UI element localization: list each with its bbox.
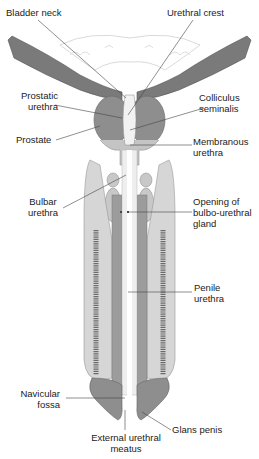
label-membranous-urethra: Membranous urethra	[193, 136, 248, 158]
label-external-urethral-meatus: External urethral meatus	[86, 432, 166, 454]
label-urethral-crest: Urethral crest	[167, 7, 224, 18]
label-colliculus-seminalis: Colliculus seminalis	[199, 92, 240, 114]
bulbourethral-opening-left	[120, 211, 122, 213]
label-prostatic-urethra: Prostatic urethra	[14, 90, 58, 112]
label-navicular-fossa: Navicular fossa	[14, 388, 60, 410]
bulbourethral-opening-right	[127, 211, 129, 213]
label-opening-bulbourethral-gland: Opening of bulbo-urethral gland	[193, 196, 252, 229]
label-penile-urethra: Penile urethra	[194, 282, 224, 304]
label-bulbar-urethra: Bulbar urethra	[24, 196, 62, 218]
label-glans-penis: Glans penis	[172, 424, 222, 435]
corpus-spongiosum	[112, 150, 147, 405]
label-bladder-neck: Bladder neck	[6, 7, 61, 18]
label-prostate: Prostate	[16, 134, 51, 145]
